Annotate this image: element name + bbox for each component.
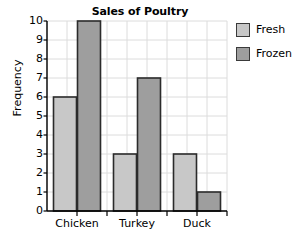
y-axis-tick-label: 2 [23,167,43,178]
chart-legend: FreshFrozen [236,20,300,68]
y-axis-tick-label: 7 [23,72,43,83]
y-axis-tick-label: 3 [23,148,43,159]
y-axis-tick-label: 9 [23,34,43,45]
bar-chart: Sales of Poultry Frequency 012345678910 … [0,0,300,243]
legend-item[interactable]: Fresh [236,20,300,40]
legend-item-label: Frozen [256,48,292,60]
x-axis-tick-label: Chicken [47,218,107,230]
plot-area [47,21,227,211]
chart-title: Sales of Poultry [55,5,225,18]
y-axis-tick-label: 10 [23,15,43,26]
y-axis-tick-label: 6 [23,91,43,102]
y-axis-tick-label: 5 [23,110,43,121]
legend-swatch [236,23,250,37]
y-axis-tick-label: 4 [23,129,43,140]
x-axis-tick-label: Duck [167,218,227,230]
y-axis-tick-label: 8 [23,53,43,64]
axis-lines [47,21,227,211]
y-axis-tick-label: 1 [23,186,43,197]
y-axis-tick-labels: 012345678910 [21,21,43,211]
x-axis-tick-labels: ChickenTurkeyDuck [47,218,227,234]
y-axis-tick-label: 0 [23,205,43,216]
legend-item[interactable]: Frozen [236,44,300,64]
legend-item-label: Fresh [256,24,285,36]
legend-swatch [236,47,250,61]
x-axis-tick-label: Turkey [107,218,167,230]
